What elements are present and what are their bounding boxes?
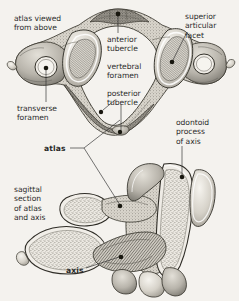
- label-odontoid-process-of-axis: odontoid process of axis: [176, 118, 209, 146]
- label-superior-articular-facet: superior articular facet: [185, 12, 216, 40]
- dot-axis-sagittal: [119, 255, 124, 260]
- dot-odontoid-process: [180, 175, 185, 180]
- figure-atlas-axis-sagittal-section: [16, 163, 215, 297]
- dot-transverse-foramen: [44, 66, 49, 71]
- dot-posterior-tubercle-upper: [99, 110, 103, 114]
- label-atlas-viewed-from-above: atlas viewed from above: [14, 14, 61, 33]
- label-anterior-tubercle: anterior tubercle: [107, 35, 138, 54]
- anatomy-plate: atlas viewed from above superior articul…: [0, 0, 239, 301]
- label-transverse-foramen: transverse foramen: [17, 104, 57, 123]
- axis-posterior-lamina: [190, 170, 215, 227]
- atlas-arch-bar: [102, 195, 156, 222]
- label-axis: axis: [66, 266, 84, 275]
- label-vertebral-foramen: vertebral foramen: [107, 62, 141, 81]
- dot-anterior-tubercle: [116, 12, 121, 17]
- odontoid-process: [156, 163, 193, 276]
- dot-posterior-tubercle-lower: [118, 130, 122, 134]
- left-transverse-process: [7, 42, 68, 85]
- label-sagittal-section-of-atlas-and-axis: sagittal section of atlas and axis: [14, 185, 46, 223]
- label-posterior-tubercle: posterior tubercle: [107, 89, 141, 108]
- dot-superior-articular-facet: [170, 60, 175, 65]
- axis-inferior-processes: [112, 268, 186, 297]
- dot-atlas-sagittal: [118, 204, 123, 209]
- anterior-arch: [90, 9, 149, 24]
- label-atlas: atlas: [44, 144, 66, 153]
